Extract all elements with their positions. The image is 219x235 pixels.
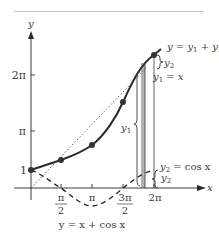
cosine-label: y2 = cos x [159,161,211,174]
brace-y2-top-label: y2 [163,57,174,70]
sum-curve [31,49,161,170]
brace-y2-bottom [152,170,158,188]
x-tick-pi-over-2: π 2 [55,192,67,216]
y-tick-pi: π [19,125,26,138]
marked-points [28,52,157,173]
y-ticks [31,75,35,131]
x-ticks [61,184,154,188]
graph: 2π π 1 y x π 2 π 3π 2 2π y = y1 + y2 y2 … [0,0,219,235]
x-axis [14,185,206,191]
svg-text:3π: 3π [119,192,132,203]
svg-text:2: 2 [58,205,64,216]
sum-curve-label: y = y1 + y2 [166,41,219,54]
y-tick-1: 1 [20,164,27,177]
y-axis-label: y [27,18,34,29]
brace-y1 [134,72,140,186]
x-tick-2pi: 2π [149,192,162,203]
x-tick-pi: π [89,192,96,203]
svg-text:π: π [58,192,65,203]
brace-y1-label: y1 [120,122,131,135]
line-y1-label: y1 = x [152,71,184,84]
svg-text:2: 2 [122,205,128,216]
y-axis [28,31,34,200]
x-tick-3pi-over-2: 3π 2 [117,192,133,216]
brace-y2-top [157,55,163,69]
caption: y = x + cos x [58,219,126,230]
y-tick-2pi: 2π [12,69,26,82]
x-axis-label: x [207,182,213,193]
